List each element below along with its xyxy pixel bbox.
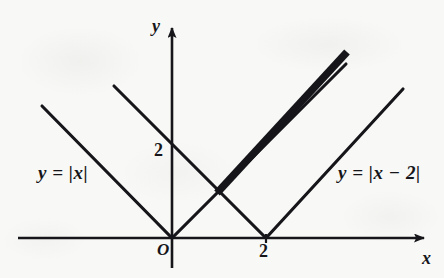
- y-axis-tick-label-2: 2: [154, 141, 163, 159]
- absolute-value-graph-figure: y x 2 2 O y = |x| y = |x − 2|: [0, 0, 444, 278]
- y-axis-label: y: [152, 17, 160, 35]
- curve-abs-x-path: [42, 64, 346, 238]
- plot-canvas: [0, 0, 444, 278]
- axes-group: [18, 28, 424, 268]
- x-axis-label: x: [422, 249, 431, 267]
- origin-label: O: [157, 241, 169, 258]
- curve-label-abs-x-minus-2: y = |x − 2|: [338, 163, 421, 182]
- curve-label-abs-x: y = |x|: [38, 163, 88, 182]
- x-axis-tick-label-2: 2: [259, 242, 268, 260]
- curve-abs-x: [42, 64, 346, 238]
